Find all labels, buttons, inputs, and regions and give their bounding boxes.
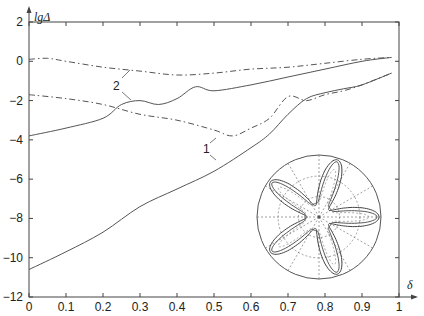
series-line-2 <box>29 57 392 135</box>
y-arrow-head-icon <box>27 6 32 13</box>
x-tick-label: 0 <box>26 300 33 314</box>
y-tick-label: −2 <box>9 94 23 108</box>
x-tick-label: 0.3 <box>132 300 149 314</box>
y-axis-label: lgΔ <box>34 10 50 24</box>
axes: 00.10.20.30.40.50.60.70.80.9120−2−4−6−8−… <box>3 6 418 314</box>
x-tick-label: 0.4 <box>169 300 186 314</box>
x-axis-label: δ <box>407 278 413 292</box>
x-arrow-head-icon <box>411 295 418 300</box>
y-tick-label: −8 <box>9 211 23 225</box>
x-tick-label: 0.9 <box>354 300 371 314</box>
annotation-1-leader-bottom <box>210 155 216 160</box>
y-tick-label: −12 <box>3 290 24 304</box>
y-tick-label: 0 <box>16 54 23 68</box>
x-tick-label: 0.1 <box>58 300 75 314</box>
annotation-1: 1 <box>203 142 210 156</box>
y-tick-label: 2 <box>16 15 23 29</box>
x-tick-label: 1 <box>396 300 403 314</box>
polar-center-dot <box>318 216 321 219</box>
y-tick-label: −4 <box>9 133 23 147</box>
x-tick-label: 0.2 <box>95 300 112 314</box>
x-tick-label: 0.6 <box>243 300 260 314</box>
series-line-1 <box>29 73 392 136</box>
annotation-1-leader-top <box>210 138 216 143</box>
annotation-2-leader-bottom <box>122 92 131 100</box>
x-tick-label: 0.8 <box>317 300 334 314</box>
x-tick-label: 0.7 <box>280 300 297 314</box>
polar-inset <box>257 155 381 279</box>
y-tick-label: −6 <box>9 172 23 186</box>
chart: 00.10.20.30.40.50.60.70.80.9120−2−4−6−8−… <box>0 0 424 316</box>
y-tick-label: −10 <box>3 251 24 265</box>
annotation-2-leader-top <box>122 70 130 78</box>
annotation-2: 2 <box>113 79 120 93</box>
x-tick-label: 0.5 <box>206 300 223 314</box>
